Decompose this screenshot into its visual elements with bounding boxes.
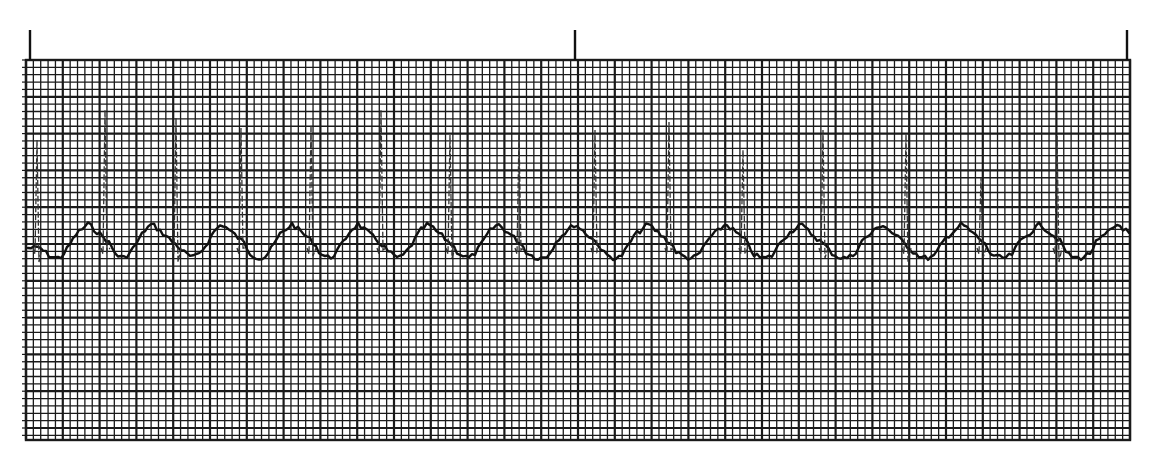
ecg-grid — [22, 60, 1130, 440]
ecg-strip — [0, 0, 1150, 468]
time-markers — [30, 30, 1127, 60]
